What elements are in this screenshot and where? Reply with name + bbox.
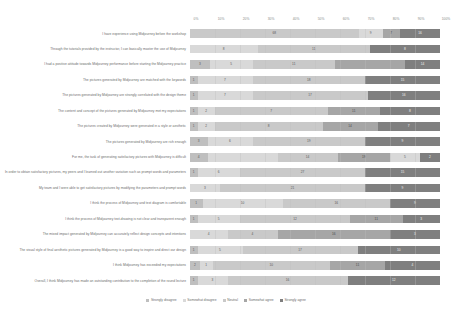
- bar-segment-value: 5: [219, 246, 221, 255]
- legend-item: Neutral: [223, 298, 238, 303]
- bar-segment-value: 7: [270, 107, 272, 116]
- bar-segment: 19: [338, 153, 391, 162]
- bar-segment: 5: [198, 215, 241, 224]
- bar-segment-value: 68: [273, 29, 277, 38]
- chart-row: The mixed impact generated by Midjourney…: [0, 227, 452, 242]
- bar-segment-value: 8: [404, 45, 406, 54]
- bar-segment-value: 6: [229, 137, 231, 146]
- legend-swatch-icon: [244, 299, 247, 302]
- chart-row-label: The visual style of final aesthetic pict…: [0, 248, 190, 252]
- bar-segment: 8: [370, 45, 440, 54]
- bar-segment-value: 16: [402, 91, 406, 100]
- chart-row: For me, the task of generating satisfact…: [0, 150, 452, 165]
- x-axis-tick: 10%: [218, 14, 225, 24]
- bar-segment-value: 16: [334, 199, 338, 208]
- bar-segment-value: 1: [195, 199, 197, 208]
- chart-row: Through the tutorials provided by the in…: [0, 41, 452, 56]
- bar-segment: 27: [240, 168, 365, 177]
- x-axis-tick: 40%: [293, 14, 300, 24]
- bar-segment-value: 6: [218, 168, 220, 177]
- bar-segment: 1: [190, 246, 198, 255]
- bar-segment-value: 3: [199, 60, 201, 69]
- legend-swatch-icon: [280, 299, 283, 302]
- bar-segment-value: 14: [421, 60, 425, 69]
- bar-segment: 7: [198, 76, 253, 85]
- bar-segment-value: 16: [418, 29, 422, 38]
- bar-segment: 1: [190, 122, 198, 131]
- likert-stacked-bar-chart: 0%10%20%30%40%50%60%70%80%90%100% I have…: [0, 0, 452, 320]
- bar-segment-value: 4: [412, 261, 414, 270]
- bar-segment-value: 1: [193, 122, 195, 131]
- bar-segment: 9: [359, 29, 383, 38]
- bar-segment: 8: [190, 45, 258, 54]
- bar-segment: 12: [240, 215, 350, 224]
- bar-segment: 1: [190, 276, 198, 285]
- bar-segment-value: 5: [218, 215, 220, 224]
- stacked-bar: 171716: [190, 91, 440, 100]
- bar-segment: 4: [190, 153, 208, 162]
- chart-row: I have experience using Midjourney befor…: [0, 26, 452, 41]
- bar-segment: 9: [365, 184, 440, 193]
- bar-segment-value: 1: [193, 168, 195, 177]
- bar-segment-value: 11: [352, 107, 355, 116]
- bar-segment-value: 8: [223, 45, 225, 54]
- bar-segment: 16: [228, 276, 348, 285]
- bar-segment: 2: [198, 107, 216, 116]
- bar-segment: 5: [390, 153, 420, 162]
- bar-segment-value: 4: [198, 153, 200, 162]
- chart-row-label: Through the tutorials provided by the in…: [0, 47, 190, 51]
- bar-segment: 11: [328, 107, 381, 116]
- bar-segment: 17: [253, 91, 368, 100]
- chart-row: The pictures generated by Midjourney are…: [0, 134, 452, 149]
- legend-swatch-icon: [146, 299, 149, 302]
- bar-segment-value: 7: [408, 122, 410, 131]
- bar-segment: 18: [253, 76, 366, 85]
- bar-segment-value: 2: [205, 107, 207, 116]
- bar-segment-value: 3: [204, 184, 206, 193]
- bar-segment-value: 3: [420, 215, 422, 224]
- stacked-bar: 162715: [190, 168, 440, 177]
- bar-segment: 16: [278, 230, 391, 239]
- x-axis-tick: 50%: [318, 14, 325, 24]
- chart-row: The pictures generated by Midjourney are…: [0, 72, 452, 87]
- bar-segment: 1: [190, 76, 198, 85]
- bar-segment: 68: [190, 29, 359, 38]
- legend-label: Strongly agree: [284, 298, 305, 303]
- stacked-bar: 3219: [190, 184, 440, 193]
- legend-swatch-icon: [223, 299, 226, 302]
- bar-segment-value: 8: [409, 107, 411, 116]
- x-axis-tick: 30%: [268, 14, 275, 24]
- chart-row-label: I think the process of Midjourney text-d…: [0, 217, 190, 221]
- stacked-bar: 110169: [190, 199, 440, 208]
- bar-segment: 5: [210, 60, 253, 69]
- bar-segment: 10: [203, 199, 283, 208]
- chart-row-label: I have experience using Midjourney befor…: [0, 32, 190, 36]
- bar-segment: 11: [253, 60, 336, 69]
- chart-row-label: The pictures generated by Midjourney are…: [0, 140, 190, 144]
- stacked-bar: 8118: [190, 45, 440, 54]
- legend-item: Strongly agree: [280, 298, 306, 303]
- bar-segment-value: 1: [193, 215, 195, 224]
- bar-segment: 4: [385, 261, 440, 270]
- bar-segment-value: 1: [193, 246, 195, 255]
- bar-segment-value: 9: [402, 184, 404, 193]
- bar-segment-value: 5: [230, 60, 232, 69]
- chart-row-label: I had a positive attitude towards Midjou…: [0, 62, 190, 66]
- chart-row-label: The mixed impact generated by Midjourney…: [0, 232, 190, 236]
- bar-segment-value: 1: [193, 107, 195, 116]
- bar-segment-value: 8: [268, 122, 270, 131]
- chart-row: In order to obtain satisfactory pictures…: [0, 165, 452, 180]
- bar-segment: 11: [350, 215, 403, 224]
- bar-segment-value: 9: [402, 137, 404, 146]
- stacked-bar: 128147: [190, 122, 440, 131]
- bar-segment: 4: [190, 230, 228, 239]
- bar-segment: 11: [258, 45, 371, 54]
- chart-row-label: For me, the task of generating satisfact…: [0, 155, 190, 159]
- bar-segment-value: 27: [301, 168, 305, 177]
- bar-segment: 3: [190, 60, 210, 69]
- x-axis-tick: 60%: [343, 14, 350, 24]
- bar-segment: 3: [403, 215, 441, 224]
- bar-segment-value: 3: [414, 230, 416, 239]
- bar-segment: 14: [405, 60, 440, 69]
- legend-label: Neutral: [227, 298, 238, 303]
